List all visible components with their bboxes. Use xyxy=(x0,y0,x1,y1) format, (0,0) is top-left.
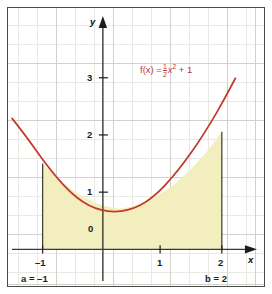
plot-area: y x 0 1 2 3 –1 1 2 a = –1 b = 2 f(x) =12… xyxy=(8,8,264,286)
y-tick-label-3: 3 xyxy=(87,73,92,83)
y-axis-label: y xyxy=(90,16,95,27)
function-label-exponent: 2 xyxy=(173,63,177,70)
x-axis-label: x xyxy=(248,254,253,265)
fraction-denominator: 2 xyxy=(163,70,167,78)
x-tick-label-minus1: –1 xyxy=(35,258,46,268)
y-tick-label-1: 1 xyxy=(87,187,92,197)
integral-figure: y x 0 1 2 3 –1 1 2 a = –1 b = 2 f(x) =12… xyxy=(0,0,272,294)
x-tick-label-2: 2 xyxy=(218,258,223,268)
origin-label: 0 xyxy=(88,224,93,234)
figure-frame: y x 0 1 2 3 –1 1 2 a = –1 b = 2 f(x) =12… xyxy=(7,7,265,287)
function-label: f(x) =12x2 + 1 xyxy=(140,63,192,79)
plot-svg xyxy=(8,8,264,286)
x-axis-arrowhead xyxy=(245,245,257,253)
function-label-fraction: 12 xyxy=(163,63,167,79)
upper-bound-label: b = 2 xyxy=(205,274,227,284)
function-label-suffix: + 1 xyxy=(179,64,192,75)
lower-bound-label: a = –1 xyxy=(21,274,48,284)
x-tick-label-1: 1 xyxy=(157,258,162,268)
fraction-numerator: 1 xyxy=(163,63,167,70)
function-label-prefix: f(x) = xyxy=(140,64,162,75)
y-axis-arrowhead xyxy=(99,16,107,28)
y-tick-label-2: 2 xyxy=(87,130,92,140)
